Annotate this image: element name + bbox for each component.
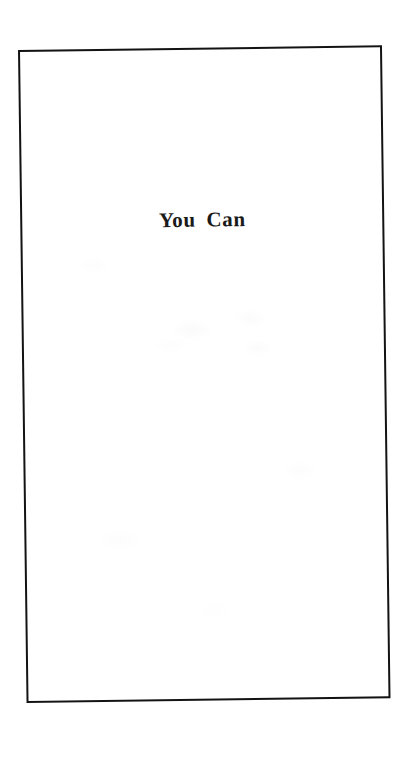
frame-content-area: You Can bbox=[20, 47, 388, 701]
scanned-page: You Can bbox=[0, 0, 406, 766]
page-title: You Can bbox=[159, 209, 246, 231]
title-block: You Can bbox=[22, 207, 382, 233]
printed-rule-border: You Can bbox=[18, 45, 391, 703]
